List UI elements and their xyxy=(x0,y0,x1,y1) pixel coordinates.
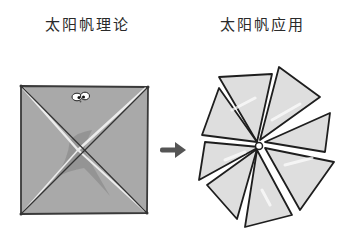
pinwheel-sail xyxy=(199,67,334,227)
square-sail xyxy=(20,85,150,216)
pinwheel-hub xyxy=(256,143,263,150)
arrow-right-icon xyxy=(160,142,186,158)
diagram-canvas xyxy=(0,0,354,241)
